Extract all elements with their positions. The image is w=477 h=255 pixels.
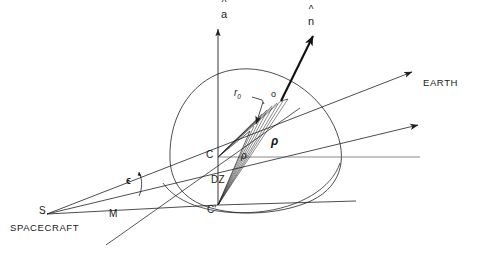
label-r-zero: r0 <box>234 88 241 101</box>
a-hat-char: a <box>221 8 227 20</box>
surface-normal-vector <box>281 36 313 101</box>
r0-leader-line <box>0 97 264 124</box>
label-rho-small: ρ <box>241 151 247 161</box>
label-spacecraft: SPACECRAFT <box>10 223 79 233</box>
label-point-o: o <box>271 90 276 99</box>
n-hat-char: n <box>308 15 314 27</box>
label-point-c-prime: C' <box>207 205 216 215</box>
r-zero-subscript: 0 <box>237 93 241 100</box>
ray-bundle-cprime-to-o <box>218 99 288 205</box>
label-rho-large: ρ <box>271 135 278 147</box>
figure-canvas: ^ a ^ n r0 o ρ ρ C C' DZ ϵ S M SPACECRAF… <box>0 0 477 255</box>
n-hat-accent: ^ <box>309 5 314 15</box>
label-point-c: C <box>206 150 213 160</box>
body-outline <box>170 69 342 213</box>
body-terminator-arc <box>163 163 340 213</box>
diagram-svg <box>0 0 477 255</box>
label-epsilon: ϵ <box>126 176 131 186</box>
label-dz: DZ <box>211 175 225 185</box>
a-hat-accent: ^ <box>222 0 227 8</box>
label-normal-n-hat: ^ n <box>308 12 314 28</box>
label-axis-a-hat: ^ a <box>221 5 227 21</box>
label-point-s: S <box>39 206 46 216</box>
oblique-crossing-line <box>106 108 300 245</box>
label-point-m: M <box>109 209 117 219</box>
label-earth: EARTH <box>423 78 458 88</box>
